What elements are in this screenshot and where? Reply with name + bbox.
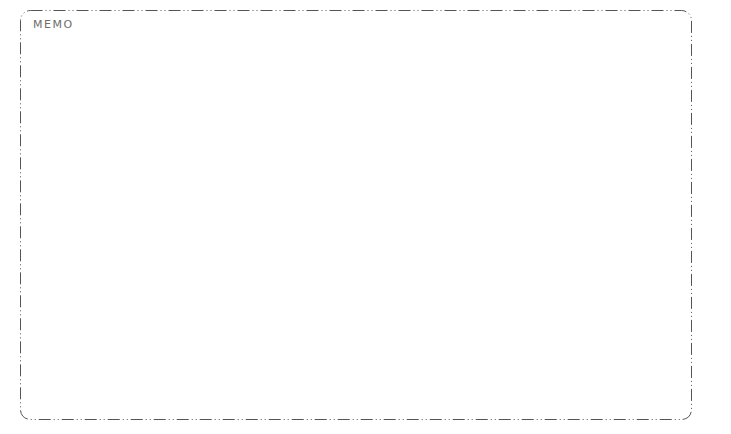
memo-title: MEMO <box>33 18 74 31</box>
memo-text-area[interactable] <box>22 36 692 420</box>
